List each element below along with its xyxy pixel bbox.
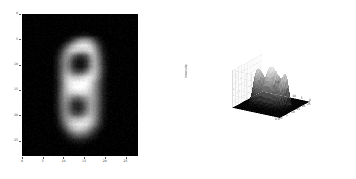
surface-axes-3d — [186, 0, 356, 179]
x-tick-label: 20 — [98, 160, 112, 163]
z-tick-label-3d: 0.5 — [275, 99, 280, 102]
y-tick-label: 5 — [0, 38, 18, 41]
x-tick-label: 25 — [119, 160, 133, 163]
y-tick-label-3d: 25 — [267, 90, 271, 93]
x-tick-label-3d: 10 — [291, 111, 295, 114]
digit-image-canvas — [22, 14, 138, 156]
x-tick-label: 15 — [77, 160, 91, 163]
x-tick-label-3d: 20 — [302, 105, 306, 108]
y-tick-label: 10 — [0, 63, 18, 66]
z-tick-label-3d: 0.0 — [275, 118, 280, 121]
x-tick-label: 5 — [36, 160, 50, 163]
x-tick-label-3d: 25 — [307, 103, 311, 106]
surface-plot-canvas — [186, 0, 356, 179]
x-tick-label: 10 — [56, 160, 70, 163]
y-tick-mark — [19, 14, 21, 15]
z-tick-label-3d: 1.0 — [275, 81, 280, 84]
x-tick-label-3d: 5 — [286, 114, 288, 117]
y-tick-mark — [19, 115, 21, 116]
x-axis-2d: 0510152025 — [22, 157, 138, 169]
x-tick-label-3d: 0 — [280, 117, 282, 120]
y-tick-mark — [19, 39, 21, 40]
y-tick-label: 0 — [0, 12, 18, 15]
y-tick-mark — [19, 65, 21, 66]
y-tick-label-3d: 10 — [292, 95, 296, 98]
left-panel-2d-image: 0510152025 0510152025 0 5 10 15 20 25 — [0, 0, 178, 179]
y-tick-label-3d: 15 — [284, 93, 288, 96]
y-tick-label-3d: 20 — [275, 91, 279, 94]
y-tick-mark — [19, 90, 21, 91]
y-tick-label-3d: 5 — [301, 97, 303, 100]
y-axis-2d: 0510152025 — [0, 14, 20, 156]
x-tick-label-3d: 15 — [296, 108, 300, 111]
x-tick-label: 0 — [15, 160, 29, 163]
y-tick-label: 20 — [0, 114, 18, 117]
figure-root: 0510152025 0510152025 0 5 10 15 20 25 in… — [0, 0, 356, 179]
y-tick-label: 25 — [0, 139, 18, 142]
image-axes-2d — [22, 14, 138, 156]
y-tick-mark — [19, 141, 21, 142]
y-tick-label-3d: 0 — [309, 99, 311, 102]
z-axis-label-3d: intensity — [185, 64, 188, 78]
y-tick-label: 15 — [0, 88, 18, 91]
right-panel-3d-surface: intensity 051015202505101520250.00.51.0 — [186, 0, 356, 179]
